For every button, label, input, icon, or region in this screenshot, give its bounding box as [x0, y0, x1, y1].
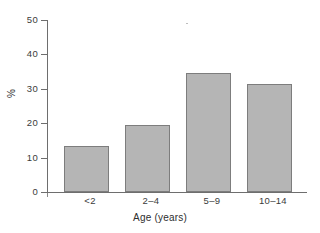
y-tick-label-50: 50: [0, 15, 38, 25]
bar-chart-figure: 0 10 20 30 40 50 <2 2–4 5–9 10–14 Age (y…: [0, 0, 320, 233]
y-tick-label-0: 0: [0, 187, 38, 197]
y-axis-title: %: [6, 89, 17, 98]
y-tick-label-40: 40: [0, 49, 38, 59]
bar-1: [125, 125, 170, 192]
x-axis-title: Age (years): [0, 212, 320, 223]
y-tick-label-20: 20: [0, 118, 38, 128]
bar-2: [186, 73, 231, 192]
plot-area: [47, 20, 305, 192]
bar-3: [247, 84, 292, 192]
x-tick-label-3: 10–14: [227, 196, 319, 206]
y-tick-label-10: 10: [0, 153, 38, 163]
bar-0: [64, 146, 109, 192]
scan-speck: [186, 23, 188, 24]
x-axis-line: [41, 192, 307, 193]
